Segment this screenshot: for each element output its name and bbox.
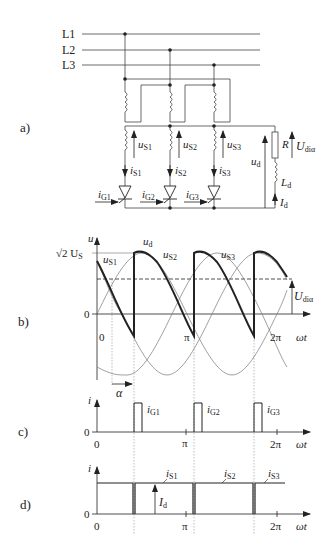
label-L2: L2 bbox=[62, 43, 75, 57]
chart-d-xpi-label: π bbox=[182, 520, 188, 532]
chart-c-xpi-label: π bbox=[182, 437, 188, 449]
chart-d-xlabel: ωt bbox=[296, 520, 308, 532]
label-ig3: iG3 bbox=[186, 188, 199, 202]
label-ig2-pulse: iG2 bbox=[207, 403, 220, 417]
panel-c-label: c) bbox=[18, 424, 28, 439]
secondary-coil-3 bbox=[214, 126, 216, 186]
thyristors bbox=[118, 186, 221, 203]
primary-coil-2 bbox=[170, 85, 172, 122]
label-is1: iS1 bbox=[130, 164, 142, 178]
chart-b-ylabel: u bbox=[88, 232, 94, 244]
label-is3-current: iS3 bbox=[268, 467, 280, 481]
label-us2-curve: uS2 bbox=[163, 248, 177, 262]
panel-a-label: a) bbox=[20, 120, 30, 135]
chart-c bbox=[92, 400, 310, 435]
chart-b-y0-label: 0 bbox=[84, 308, 90, 320]
label-us3-curve: uS3 bbox=[221, 248, 235, 262]
chart-d-y0-label: 0 bbox=[84, 508, 90, 520]
label-L3: L3 bbox=[62, 58, 75, 72]
junction-dots bbox=[123, 32, 216, 210]
label-ig3-pulse: iG3 bbox=[267, 403, 280, 417]
label-Id: Id bbox=[279, 196, 288, 210]
primary-coil-1 bbox=[125, 79, 127, 122]
panel-b-label: b) bbox=[18, 314, 29, 329]
label-is3: iS3 bbox=[219, 164, 231, 178]
chart-b-xlabel: ωt bbox=[296, 331, 308, 343]
label-ig1-pulse: iG1 bbox=[147, 403, 160, 417]
chart-c-x0-label: 0 bbox=[94, 438, 100, 450]
label-is1-current: iS1 bbox=[166, 467, 178, 481]
chart-c-y0-label: 0 bbox=[84, 426, 90, 438]
label-ig1: iG1 bbox=[98, 188, 111, 202]
label-us3: uS3 bbox=[227, 138, 241, 152]
diagram-canvas: L1 L2 L3 a) uS1 uS2 uS3 iS1 iS2 iS3 iG1 … bbox=[0, 0, 335, 555]
chart-d-x0-label: 0 bbox=[94, 520, 100, 532]
label-Ld: Ld bbox=[280, 176, 291, 190]
panel-d-label: d) bbox=[20, 497, 31, 512]
label-us2: uS2 bbox=[183, 138, 197, 152]
label-is2: iS2 bbox=[175, 164, 187, 178]
chart-c-x2pi-label: 2π bbox=[270, 438, 282, 450]
chart-b-x0-label: 0 bbox=[99, 331, 105, 343]
label-alpha: α bbox=[116, 386, 123, 400]
label-R: R bbox=[281, 138, 289, 150]
chart-c-xlabel: ωt bbox=[296, 438, 308, 450]
label-udia: Udiα bbox=[296, 139, 316, 154]
label-ud-curve: ud bbox=[143, 235, 153, 249]
secondary-coil-2 bbox=[170, 126, 172, 186]
circuit-diagram bbox=[82, 34, 278, 208]
label-is2-current: iS2 bbox=[224, 467, 236, 481]
label-L1: L1 bbox=[62, 27, 75, 41]
label-udia-level: Udiα bbox=[294, 289, 314, 304]
label-ud: ud bbox=[251, 155, 261, 169]
chart-d-ylabel: i bbox=[88, 462, 91, 474]
chart-c-ylabel: i bbox=[88, 394, 91, 406]
label-us1: uS1 bbox=[138, 138, 152, 152]
chart-b-x2pi-label: 2π bbox=[270, 331, 282, 343]
chart-b-xpi-label: π bbox=[184, 331, 190, 343]
label-Id-level: Id bbox=[158, 495, 167, 510]
primary-coil-3 bbox=[214, 85, 216, 122]
label-ig2: iG2 bbox=[142, 188, 155, 202]
secondary-coil-1 bbox=[125, 126, 127, 186]
chart-b-ymax-label: √2 US bbox=[56, 247, 83, 261]
label-us1-curve: uS1 bbox=[103, 253, 117, 267]
chart-d-x2pi-label: 2π bbox=[270, 520, 282, 532]
chart-b bbox=[92, 238, 310, 535]
resistor bbox=[272, 132, 278, 158]
